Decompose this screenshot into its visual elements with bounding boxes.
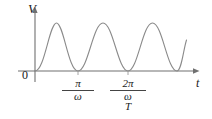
- tick-label-2pi-over-omega: 2π ω: [110, 78, 146, 102]
- v-axis-label: V: [28, 1, 36, 17]
- tick-label-denominator: ω: [62, 90, 94, 103]
- period-label-T: T: [110, 100, 146, 112]
- t-axis-line: [18, 68, 200, 74]
- rectified-sine-curve: [35, 23, 187, 71]
- plot-canvas: [0, 0, 212, 119]
- tick-label-pi-over-omega: π ω: [62, 78, 94, 102]
- rectified-sine-figure: V t 0 π ω 2π ω T: [0, 0, 212, 119]
- axis-tick-marks: [78, 71, 128, 75]
- tick-label-numerator: 2π: [110, 78, 146, 90]
- origin-label: 0: [22, 68, 28, 83]
- t-axis-label: t: [196, 76, 199, 91]
- tick-label-numerator: π: [62, 78, 94, 90]
